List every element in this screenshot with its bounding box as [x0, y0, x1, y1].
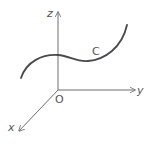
curve-c — [21, 25, 127, 78]
y-axis-label: y — [136, 84, 144, 97]
x-axis — [19, 90, 58, 131]
x-axis-label: x — [7, 121, 15, 134]
coordinate-diagram: z y x O C — [0, 0, 151, 144]
curve-label: C — [92, 45, 100, 58]
z-axis-label: z — [46, 7, 53, 20]
origin-label: O — [55, 93, 64, 106]
